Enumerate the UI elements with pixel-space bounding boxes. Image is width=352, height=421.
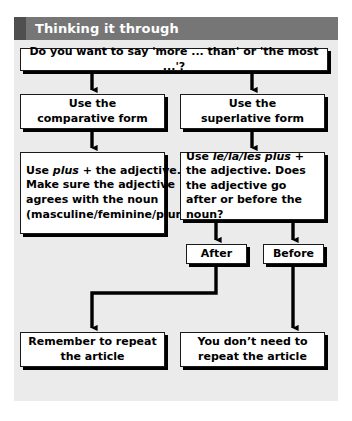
node-les-rule-prefix: Use <box>186 150 213 163</box>
node-repeat-line1: Remember to repeat <box>28 335 156 348</box>
node-before-label: Before <box>273 247 314 262</box>
node-superlative-line1: Use the <box>229 97 276 110</box>
node-plus-rule-italic: plus <box>53 164 79 177</box>
node-before: Before <box>263 244 324 264</box>
node-plus-rule: Use plus + the adjective. Make sure the … <box>20 152 165 234</box>
node-comparative-text: Use the comparative form <box>37 97 147 126</box>
node-no-repeat-article: You don’t need to repeat the article <box>180 332 325 367</box>
node-comparative-line1: Use the <box>69 97 116 110</box>
node-no-repeat-line1: You don’t need to <box>198 335 308 348</box>
panel-header: Thinking it through <box>14 17 338 40</box>
node-repeat-line2: the article <box>60 350 124 363</box>
connector-after-to-repeat <box>92 267 216 328</box>
node-after-label: After <box>201 247 232 262</box>
node-plus-rule-text: Use plus + the adjective. Make sure the … <box>26 164 197 222</box>
node-les-rule-text: Use le/la/les plus + the adjective. Does… <box>186 150 319 223</box>
node-comparative-form: Use the comparative form <box>20 94 165 129</box>
node-repeat-text: Remember to repeat the article <box>28 335 156 364</box>
flowchart-canvas: Do you want to say 'more ... than' or 't… <box>14 40 338 401</box>
node-superlative-line2: superlative form <box>201 112 304 125</box>
panel-title: Thinking it through <box>26 21 179 36</box>
node-no-repeat-line2: repeat the article <box>198 350 307 363</box>
node-superlative-form: Use the superlative form <box>180 94 325 129</box>
thinking-it-through-panel: Thinking it through <box>14 17 338 401</box>
node-repeat-article: Remember to repeat the article <box>20 332 165 367</box>
node-question-text: Do you want to say 'more ... than' or 't… <box>26 45 322 74</box>
node-comparative-line2: comparative form <box>37 112 147 125</box>
header-accent-block <box>14 17 26 40</box>
node-plus-rule-prefix: Use <box>26 164 53 177</box>
node-question: Do you want to say 'more ... than' or 't… <box>20 48 328 71</box>
node-superlative-text: Use the superlative form <box>201 97 304 126</box>
node-les-rule-italic: le/la/les plus <box>213 150 291 163</box>
node-no-repeat-text: You don’t need to repeat the article <box>198 335 308 364</box>
node-after: After <box>186 244 247 264</box>
node-les-rule: Use le/la/les plus + the adjective. Does… <box>180 152 325 220</box>
